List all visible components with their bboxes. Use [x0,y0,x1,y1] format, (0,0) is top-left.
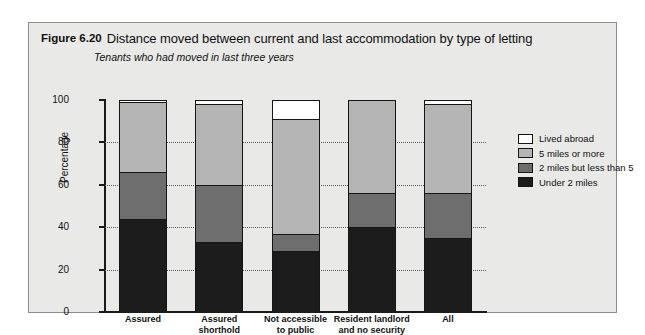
bar-segment [349,228,395,313]
figure-subtitle: Tenants who had moved in last three year… [94,51,606,63]
y-axis-tick-mark [99,141,104,143]
x-axis-tick-label: All [393,314,503,325]
bar-segment [120,103,166,173]
bar-segment [196,105,242,186]
legend-swatch [518,148,533,158]
y-axis-tick-label: 100 [43,94,69,105]
legend-swatch [518,177,533,187]
legend-label: 5 miles or more [539,148,604,159]
bar-segment [349,101,395,194]
page-title: Distance moved between current and last … [107,31,533,46]
legend-item-4: Under 2 miles [518,177,645,188]
y-axis-tick-mark [99,311,104,313]
figure-card: Figure 6.20Distance moved between curren… [28,22,617,313]
legend-label: Under 2 miles [539,177,598,188]
figure-number: Figure 6.20 [41,31,102,44]
bar-4 [348,100,396,312]
y-axis-tick-label: 0 [43,306,69,317]
bar-3 [272,100,320,312]
title-block: Figure 6.20Distance moved between curren… [41,31,606,63]
legend-label: Lived abroad [539,133,594,144]
y-axis-tick-label: 40 [43,221,69,232]
bar-segment [349,194,395,228]
bar-segment [273,101,319,120]
bar-segment [196,186,242,243]
y-axis-tick-mark [99,269,104,271]
bar-segment [273,235,319,252]
bar-segment [425,194,471,239]
y-axis-tick-label: 20 [43,264,69,275]
legend-swatch [518,163,533,173]
y-axis-tick-mark [99,99,104,101]
legend-item-1: Lived abroad [518,133,645,144]
bar-2 [195,100,243,312]
bar-1 [119,100,167,312]
bar-segment [425,105,471,194]
legend-item-3: 2 miles but less than 5 [518,162,645,173]
bar-segment [273,252,319,313]
bar-segment [120,220,166,313]
bar-segment [273,120,319,234]
bar-segment [425,239,471,313]
legend-swatch [518,134,533,144]
y-axis-tick-mark [99,226,104,228]
y-axis-tick-mark [99,184,104,186]
y-axis-tick-label: 60 [43,179,69,190]
plot-area [105,100,486,312]
legend: Lived abroad5 miles or more2 miles but l… [518,133,645,191]
legend-label: 2 miles but less than 5 [539,162,634,173]
bar-5 [424,100,472,312]
bar-segment [120,173,166,220]
legend-item-2: 5 miles or more [518,148,645,159]
bar-segment [196,243,242,313]
y-axis-tick-label: 80 [43,136,69,147]
